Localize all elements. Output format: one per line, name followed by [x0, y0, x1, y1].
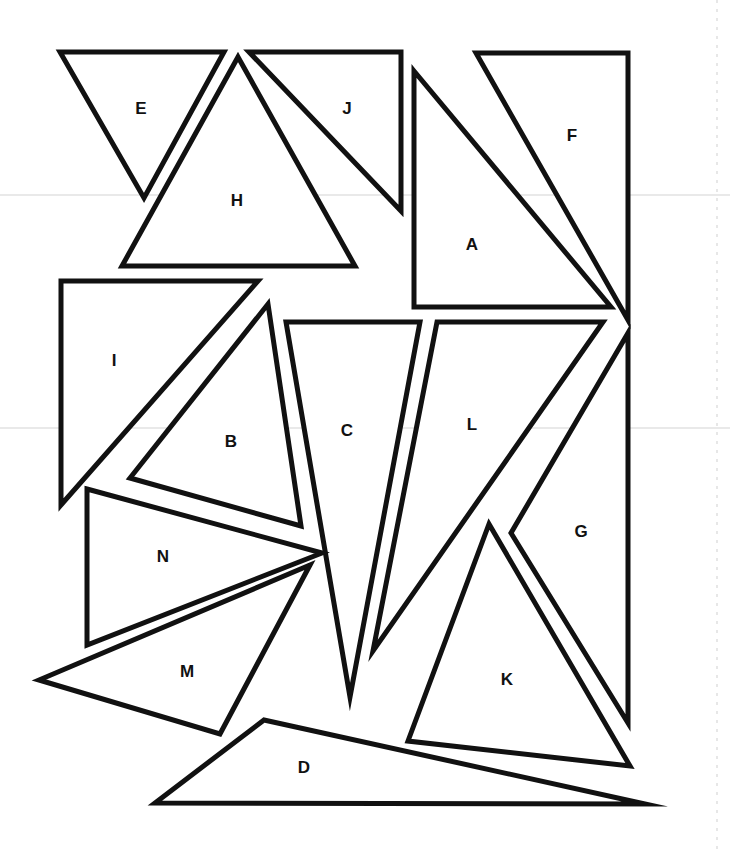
- triangle-label: M: [180, 662, 194, 681]
- triangle-label: E: [135, 99, 146, 118]
- triangle-label: N: [157, 547, 169, 566]
- triangle-label: L: [467, 415, 477, 434]
- triangle-label: A: [466, 235, 478, 254]
- triangle-label: G: [574, 522, 587, 541]
- triangle-label: F: [567, 126, 577, 145]
- triangle-label: I: [112, 351, 117, 370]
- puzzle-canvas: EHJAFIBCLGNMKD: [0, 0, 730, 852]
- triangle-label: D: [298, 758, 310, 777]
- triangle-label: J: [342, 99, 351, 118]
- triangle-label: B: [225, 432, 237, 451]
- triangle-label: K: [501, 670, 514, 689]
- triangle-label: C: [341, 421, 353, 440]
- triangle-label: H: [231, 191, 243, 210]
